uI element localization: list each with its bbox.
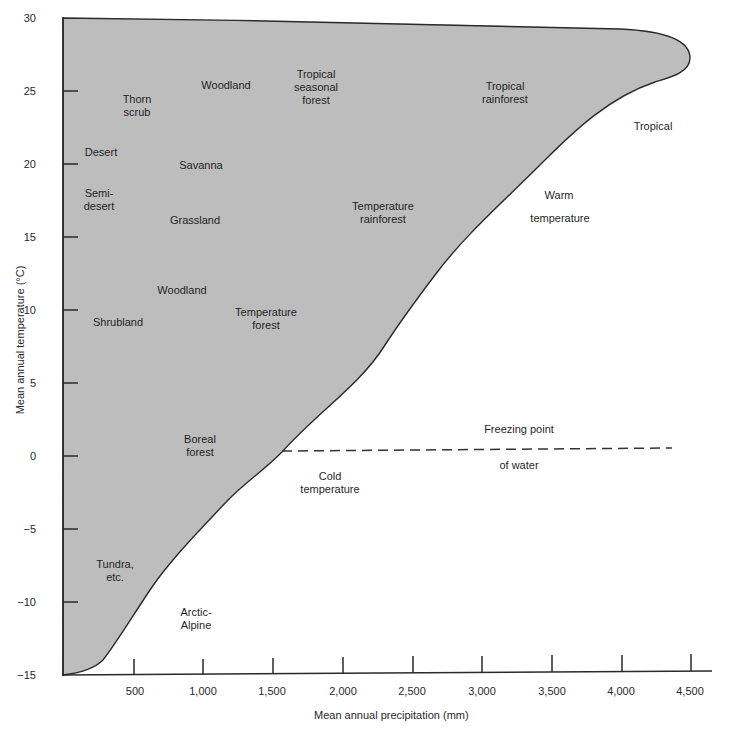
- y-tick-label: 30: [0, 12, 36, 24]
- label-semi-desert: Semi- desert: [84, 187, 115, 213]
- x-tick-label: 2,000: [329, 685, 357, 697]
- label-boreal-forest: Boreal forest: [184, 433, 216, 459]
- y-tick-label: 25: [0, 85, 36, 97]
- y-tick-label: −5: [0, 523, 36, 535]
- x-tick-label: 3,500: [538, 685, 566, 697]
- x-tick-label: 1,000: [189, 685, 217, 697]
- biome-chart: [0, 0, 732, 737]
- y-tick-label: 0: [0, 450, 36, 462]
- label-tropical-zone: Tropical: [634, 120, 673, 133]
- y-tick-label: 15: [0, 231, 36, 243]
- label-tundra: Tundra, etc.: [96, 558, 134, 584]
- label-temperature-rainforest: Temperature rainforest: [352, 200, 414, 226]
- x-axis: [62, 671, 712, 675]
- label-grassland: Grassland: [170, 214, 220, 227]
- label-thorn-scrub: Thorn scrub: [123, 93, 152, 119]
- freezing-point-line: [282, 448, 672, 451]
- y-tick-label: −10: [0, 596, 36, 608]
- label-arctic-alpine: Arctic- Alpine: [180, 606, 211, 632]
- label-shrubland: Shrubland: [93, 316, 143, 329]
- label-savanna: Savanna: [179, 159, 222, 172]
- x-axis-title: Mean annual precipitation (mm): [314, 709, 469, 721]
- label-cold-temperature: Cold temperature: [300, 470, 359, 496]
- x-tick-label: 500: [126, 685, 144, 697]
- label-woodland-top: Woodland: [201, 79, 250, 92]
- label-tropical-rainforest: Tropical rainforest: [482, 80, 528, 106]
- x-tick-label: 1,500: [258, 685, 286, 697]
- label-desert: Desert: [85, 146, 117, 159]
- y-tick-label: −15: [0, 669, 36, 681]
- x-tick-label: 2,500: [398, 685, 426, 697]
- label-warm-temperature: temperature: [530, 212, 589, 225]
- y-axis-title: Mean annual temperature (°C): [14, 266, 26, 415]
- x-tick-label: 4,000: [607, 685, 635, 697]
- y-tick-label: 20: [0, 158, 36, 170]
- x-tick-label: 3,000: [468, 685, 496, 697]
- label-freezing-point: Freezing point: [484, 423, 554, 436]
- x-tick-label: 4,500: [676, 685, 704, 697]
- label-woodland-mid: Woodland: [157, 284, 206, 297]
- label-warm: Warm: [545, 189, 574, 202]
- biome-region: [63, 18, 690, 675]
- label-temperature-forest: Temperature forest: [235, 306, 297, 332]
- label-of-water: of water: [499, 459, 538, 472]
- label-tropical-seasonal-forest: Tropical seasonal forest: [294, 68, 338, 107]
